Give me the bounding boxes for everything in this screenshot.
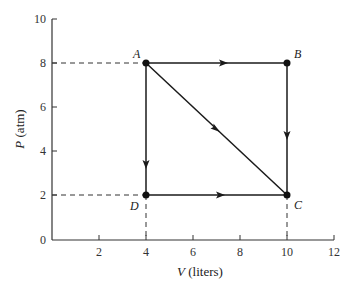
y-tick-label: 4 [40, 144, 46, 158]
point-d [143, 192, 150, 199]
y-tick-label: 6 [40, 100, 46, 114]
x-tick-label: 10 [281, 245, 293, 259]
x-ticks [99, 235, 334, 240]
point-label-d: D [129, 199, 139, 213]
y-axis-title: P (atm) [12, 109, 27, 149]
y-ticks [52, 19, 57, 195]
y-tick-label: 0 [40, 233, 46, 247]
x-tick-label: 8 [237, 245, 243, 259]
x-tick-label: 2 [96, 245, 102, 259]
point-label-c: C [294, 198, 303, 212]
guide-lines [52, 63, 287, 240]
y-tick-label: 10 [34, 12, 46, 26]
point-a [143, 60, 150, 67]
y-tick-label: 2 [40, 188, 46, 202]
x-tick-label: 4 [143, 245, 149, 259]
point-c [284, 192, 291, 199]
point-b [284, 60, 291, 67]
x-axis-title: V (liters) [177, 264, 223, 279]
y-tick-label: 8 [40, 56, 46, 70]
point-label-a: A [132, 47, 141, 61]
x-tick-label: 6 [190, 245, 196, 259]
point-label-b: B [294, 47, 302, 61]
x-tick-label: 12 [328, 245, 340, 259]
pv-diagram: 0 2 4 6 8 10 2 4 6 8 10 12 V (liters) P … [0, 0, 351, 288]
